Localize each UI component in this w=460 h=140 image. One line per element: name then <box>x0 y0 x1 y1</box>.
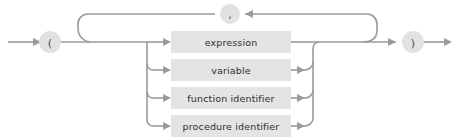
entry-rail <box>8 38 41 46</box>
fanout-rails <box>147 42 155 126</box>
nonterminal-expression-label: expression <box>205 37 258 48</box>
exit-rail <box>424 38 452 46</box>
railroad-diagram-canvas: ( , <box>0 0 460 140</box>
railroad-diagram: ( , <box>0 0 460 140</box>
nonterminal-function-identifier[interactable]: function identifier <box>171 87 291 109</box>
nonterminal-variable[interactable]: variable <box>171 59 291 81</box>
nonterminal-procedure-identifier[interactable]: procedure identifier <box>171 115 291 137</box>
terminal-comma-label: , <box>228 8 232 21</box>
nonterminal-function-identifier-label: function identifier <box>187 93 274 104</box>
nonterminal-variable-label: variable <box>211 65 251 76</box>
terminal-close-paren: ) <box>402 31 424 53</box>
terminal-comma: , <box>220 4 240 24</box>
terminal-open-paren: ( <box>39 31 61 53</box>
merge-arrows <box>291 42 313 130</box>
fanout-arrows <box>155 38 171 130</box>
nonterminal-procedure-identifier-label: procedure identifier <box>183 121 280 132</box>
terminal-close-paren-label: ) <box>411 37 415 50</box>
nonterminal-expression[interactable]: expression <box>171 31 291 53</box>
merge-rails <box>305 38 396 126</box>
terminal-open-paren-label: ( <box>48 37 52 50</box>
